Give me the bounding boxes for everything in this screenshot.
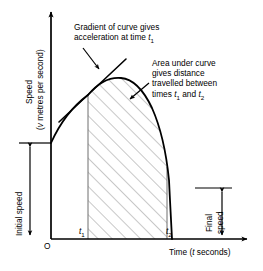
tick-label-t2: t2	[166, 226, 172, 236]
area-under-curve-shading	[88, 78, 167, 239]
speed-time-graph-figure: Gradient of curve gives acceleration at …	[0, 0, 263, 271]
x-axis-variable: t	[192, 247, 194, 257]
tick-label-t1: t1	[79, 226, 85, 236]
tick-t1-sub: 1	[81, 231, 84, 238]
y-axis-variable: v	[35, 123, 45, 127]
annotation-area-conjunction: and	[180, 89, 198, 99]
tick-label-origin: O	[44, 241, 50, 251]
y-axis-label-units: (v metres per second)	[35, 49, 45, 130]
annotation-gradient-sub: 1	[151, 37, 154, 44]
annotation-area-line1: Area under curve	[152, 58, 217, 68]
annotation-area-line2: gives distance	[152, 68, 217, 78]
annotation-gradient-line1: Gradient of curve gives	[74, 22, 159, 32]
x-axis-label-time: Time (t seconds)	[169, 247, 231, 257]
annotation-area-line4-text: times	[152, 89, 174, 99]
tick-t2-sub: 2	[168, 231, 171, 238]
annotation-area-sub2: 2	[201, 93, 204, 100]
annotation-area-line3: travelled between	[152, 78, 217, 88]
annotation-gradient: Gradient of curve gives acceleration at …	[74, 22, 159, 42]
annotation-area: Area under curve gives distance travelle…	[152, 58, 217, 99]
annotation-area-line4: times t1 and t2	[152, 89, 217, 99]
final-speed-label-line1: Final	[204, 214, 214, 232]
final-speed-label-line2: speed	[215, 211, 225, 234]
annotation-gradient-line2-text: acceleration at time	[74, 32, 148, 42]
initial-speed-label: Initial speed	[14, 192, 24, 236]
y-axis-label-speed: Speed	[24, 80, 34, 104]
gradient-leader-line	[83, 48, 99, 69]
annotation-gradient-line2: acceleration at time t1	[74, 32, 159, 42]
